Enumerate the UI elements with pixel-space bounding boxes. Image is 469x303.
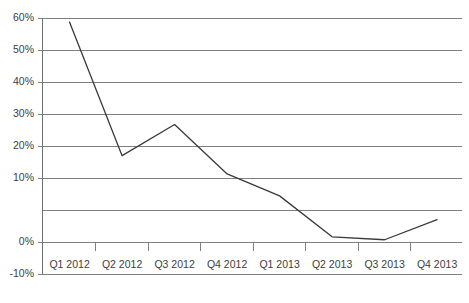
data-series-line bbox=[70, 22, 438, 240]
x-axis-label-3: Q4 2012 bbox=[207, 258, 247, 270]
x-axis-label-2: Q3 2012 bbox=[154, 258, 194, 270]
y-axis-label-7: -10% bbox=[9, 267, 34, 279]
line-chart: 60% 50% 40% 30% 20% 10% 0% -10% Q1 2012 … bbox=[0, 0, 469, 303]
x-axis-label-7: Q4 2013 bbox=[417, 258, 457, 270]
y-axis-label-1: 50% bbox=[13, 43, 34, 55]
y-axis: 60% 50% 40% 30% 20% 10% 0% -10% bbox=[9, 11, 42, 279]
x-axis-label-6: Q3 2013 bbox=[364, 258, 404, 270]
x-axis-label-1: Q2 2012 bbox=[102, 258, 142, 270]
chart-canvas: 60% 50% 40% 30% 20% 10% 0% -10% Q1 2012 … bbox=[0, 0, 469, 303]
y-axis-label-6: 0% bbox=[19, 235, 34, 247]
y-axis-label-0: 60% bbox=[13, 11, 34, 23]
x-axis-label-4: Q1 2013 bbox=[259, 258, 299, 270]
y-axis-label-3: 30% bbox=[13, 107, 34, 119]
y-axis-label-2: 40% bbox=[13, 75, 34, 87]
y-axis-label-4: 20% bbox=[13, 139, 34, 151]
x-axis-label-5: Q2 2013 bbox=[312, 258, 352, 270]
x-axis: Q1 2012 Q2 2012 Q3 2012 Q4 2012 Q1 2013 … bbox=[49, 243, 457, 270]
y-axis-label-5: 10% bbox=[13, 171, 34, 183]
gridlines bbox=[43, 19, 463, 275]
x-axis-label-0: Q1 2012 bbox=[49, 258, 89, 270]
